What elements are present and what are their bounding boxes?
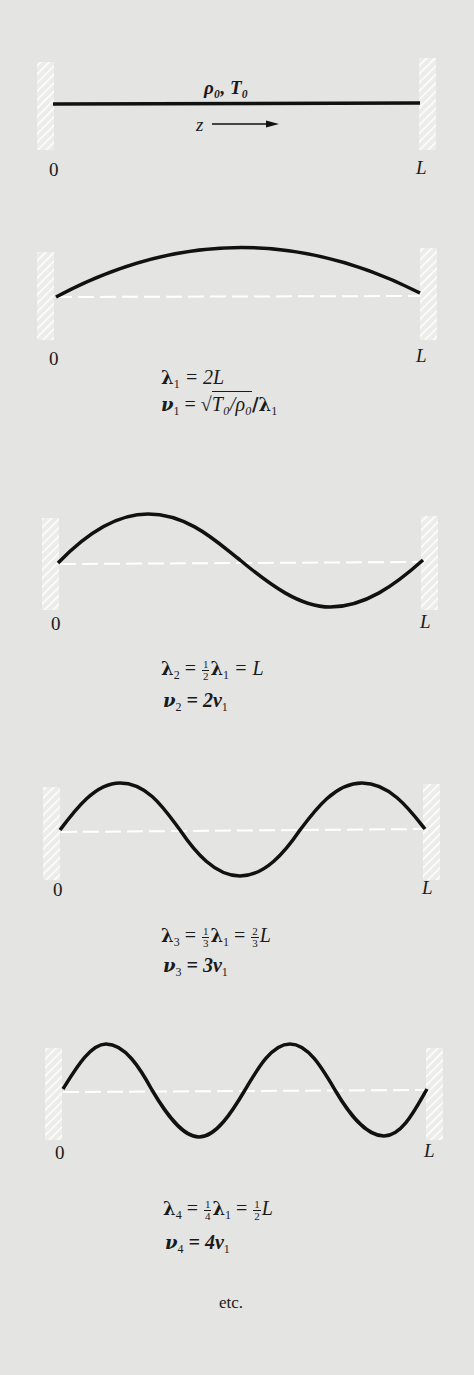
equilibrium-line <box>56 296 420 297</box>
wavelength-equation-3: λ3 = 13λ1 = 23L <box>161 925 271 949</box>
left-wall <box>37 252 54 340</box>
params-label: ρ₀, T₀ <box>204 78 248 97</box>
denominator: 3 <box>251 938 259 949</box>
denominator: 2 <box>253 1211 261 1222</box>
fraction: 14 <box>204 1199 212 1222</box>
sqrt-content: T₀/ρ₀ <box>212 391 252 415</box>
left-wall <box>42 518 59 610</box>
panel-unstretched-string <box>37 58 436 150</box>
lambda-symbol: λ <box>161 367 174 388</box>
subscript: 3 <box>174 935 180 949</box>
nu-symbol: ν <box>163 955 176 976</box>
subscript: 1 <box>174 404 180 418</box>
subscript: 1 <box>223 935 229 949</box>
wavelength-equation-4: λ4 = 14λ1 = 12L <box>163 1198 273 1222</box>
subscript: 2 <box>174 668 180 682</box>
subscript: 1 <box>222 700 228 714</box>
denominator: 3 <box>202 938 210 949</box>
right-end-label: L <box>416 346 427 365</box>
right-end-label: L <box>424 1141 435 1160</box>
equilibrium-line <box>61 829 424 832</box>
wavelength-equation-1: λ1 = 2L <box>161 367 224 390</box>
equals: = <box>187 1197 198 1219</box>
rhs: L <box>260 924 271 946</box>
left-wall <box>45 1048 62 1140</box>
right-end-label: L <box>416 158 427 177</box>
right-end-label: L <box>422 878 433 897</box>
right-end-label: L <box>420 612 431 631</box>
right-wall <box>423 784 440 880</box>
left-end-label: 0 <box>51 614 61 633</box>
equals: = <box>185 393 196 415</box>
subscript: 1 <box>223 668 229 682</box>
left-end-label: 0 <box>49 160 59 179</box>
panel-mode-4 <box>45 1044 443 1140</box>
rhs: = 2L <box>185 366 225 388</box>
fraction: 12 <box>202 659 210 682</box>
fraction: 23 <box>251 926 259 949</box>
subscript: 1 <box>222 965 228 979</box>
lambda-symbol: λ <box>161 925 174 946</box>
lambda-symbol: λ <box>210 925 223 946</box>
left-wall <box>43 787 60 880</box>
frequency-equation-1: ν1 = √T₀/ρ₀/λ1 <box>161 394 277 417</box>
rhs: = L <box>234 657 264 679</box>
tail: /λ <box>252 394 271 415</box>
left-end-label: 0 <box>53 880 63 899</box>
fraction: 12 <box>253 1199 261 1222</box>
equals: = <box>185 657 196 679</box>
rho-t-label: ρ₀, T₀ <box>204 77 248 98</box>
frequency-equation-3: ν3 = 3ν1 <box>163 955 228 978</box>
rhs: = 4ν <box>189 1231 224 1253</box>
wavelength-equation-2: λ2 = 12λ1 = L <box>161 658 264 682</box>
nu-symbol: ν <box>163 690 176 711</box>
fraction: 13 <box>202 926 210 949</box>
right-wall <box>420 248 437 340</box>
string <box>53 103 420 104</box>
subscript: 3 <box>176 965 182 979</box>
subscript: 1 <box>224 1242 230 1256</box>
right-wall <box>426 1048 443 1140</box>
left-end-label: 0 <box>49 349 59 368</box>
subscript: 1 <box>174 377 180 391</box>
rhs: = 2ν <box>187 689 222 711</box>
rhs: L <box>262 1197 273 1219</box>
lambda-symbol: λ <box>210 658 223 679</box>
subscript: 1 <box>225 1208 231 1222</box>
panel-mode-2 <box>42 514 438 610</box>
left-wall <box>37 62 54 150</box>
subscript: 2 <box>176 700 182 714</box>
lambda-symbol: λ <box>161 658 174 679</box>
left-end-label: 0 <box>55 1143 65 1162</box>
lambda-symbol: λ <box>212 1198 225 1219</box>
string-mode-1 <box>56 247 420 297</box>
equals: = <box>236 1197 247 1219</box>
sqrt-icon: √ <box>201 393 212 415</box>
panel-mode-1 <box>37 247 437 340</box>
nu-symbol: ν <box>161 394 174 415</box>
denominator: 4 <box>204 1211 212 1222</box>
subscript: 4 <box>178 1242 184 1256</box>
panel-mode-3 <box>43 783 440 880</box>
standing-wave-modes-figure: ρ₀, T₀ z 0 L 0 L λ1 = 2L ν1 = √T₀/ρ₀/λ1 … <box>0 0 474 1375</box>
subscript: 4 <box>176 1208 182 1222</box>
frequency-equation-2: ν2 = 2ν1 <box>163 690 228 713</box>
subscript: 1 <box>271 404 277 418</box>
z-axis-label: z <box>196 115 203 134</box>
string-mode-2 <box>58 514 423 607</box>
arrow-right-icon <box>212 121 279 128</box>
lambda-symbol: λ <box>163 1198 176 1219</box>
right-wall <box>419 58 436 150</box>
equals: = <box>234 924 245 946</box>
equals: = <box>185 924 196 946</box>
right-wall <box>421 516 438 610</box>
nu-symbol: ν <box>165 1232 178 1253</box>
frequency-equation-4: ν4 = 4ν1 <box>165 1232 230 1255</box>
denominator: 2 <box>202 671 210 682</box>
etc-label: etc. <box>219 1294 243 1311</box>
rhs: = 3ν <box>187 954 222 976</box>
